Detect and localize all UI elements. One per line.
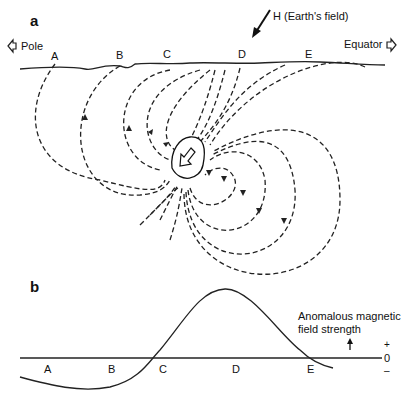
plus-label: + [384,339,390,350]
b-station-d: D [232,363,240,375]
panel-b-label: b [30,278,39,295]
earth-field-arrow-icon [252,10,270,38]
b-station-c: C [159,363,167,375]
station-b: B [116,49,123,61]
station-d: D [238,48,246,60]
equator-label: Equator [344,38,383,50]
station-e: E [305,48,312,60]
pole-arrow-icon [8,40,16,52]
zero-label: 0 [384,352,390,364]
equator-arrow-icon [387,39,396,51]
positive-arrow-icon [347,338,353,350]
magnetic-anomaly-diagram: a Pole Equator H (Earth's field) A B C D… [0,0,405,401]
anomaly-profile-curve [20,289,333,389]
pole-label: Pole [21,40,43,52]
axis-title-line2: field strength [298,323,361,335]
earth-field-label: H (Earth's field) [273,10,348,22]
b-station-e: E [307,363,314,375]
b-station-b: B [108,363,115,375]
ore-body [172,137,205,178]
panel-a-label: a [30,12,39,29]
axis-title-line1: Anomalous magnetic [298,310,401,322]
station-c: C [163,48,171,60]
minus-label: – [384,365,390,376]
b-station-a: A [44,363,52,375]
station-a: A [51,50,59,62]
